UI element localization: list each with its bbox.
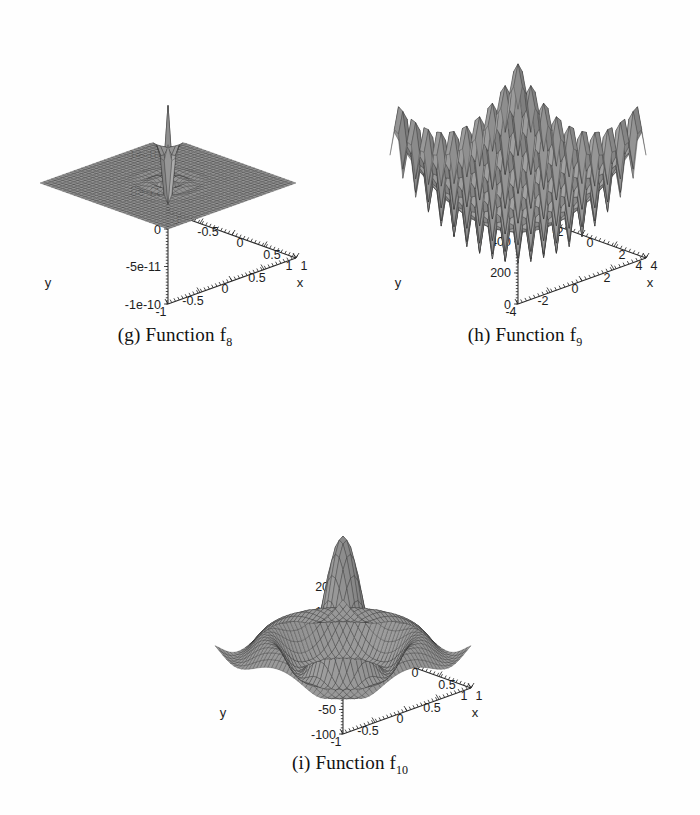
- svg-text:1: 1: [476, 689, 483, 703]
- svg-text:1: 1: [286, 259, 293, 273]
- svg-text:y: y: [395, 275, 402, 290]
- caption-g-subscript: 8: [226, 335, 232, 349]
- svg-text:-5e-11: -5e-11: [126, 260, 161, 274]
- caption-h: (h) Function f9: [350, 324, 700, 350]
- svg-text:1: 1: [461, 689, 468, 703]
- svg-text:y: y: [220, 705, 227, 720]
- svg-text:-0.5: -0.5: [197, 225, 219, 239]
- svg-text:y: y: [45, 275, 52, 290]
- svg-text:0: 0: [222, 282, 229, 296]
- svg-text:0.5: 0.5: [248, 271, 265, 285]
- svg-text:0: 0: [587, 236, 594, 250]
- surface-plot-g: -1e-10-5e-1105e-111e-10-1-0.500.51-1-0.5…: [0, 6, 350, 316]
- caption-h-text: (h) Function f: [468, 324, 576, 345]
- svg-text:200: 200: [490, 266, 511, 280]
- svg-text:-1: -1: [330, 735, 341, 749]
- caption-h-subscript: 9: [576, 335, 582, 349]
- surface-plot-i: -100-50050100150200-1-0.500.51-1-0.500.5…: [175, 440, 525, 750]
- svg-text:x: x: [297, 275, 304, 290]
- figure-page: -1e-10-5e-1105e-111e-10-1-0.500.51-1-0.5…: [0, 0, 700, 815]
- caption-g: (g) Function f8: [0, 324, 350, 350]
- svg-text:0: 0: [397, 712, 404, 726]
- caption-g-text: (g) Function f: [118, 324, 226, 345]
- svg-text:-50: -50: [318, 703, 336, 717]
- svg-text:4: 4: [636, 259, 643, 273]
- caption-i: (i) Function f10: [175, 752, 525, 778]
- svg-text:1: 1: [301, 259, 308, 273]
- svg-text:-0.5: -0.5: [182, 294, 204, 308]
- svg-text:0: 0: [572, 282, 579, 296]
- svg-text:-4: -4: [505, 305, 516, 319]
- svg-text:2: 2: [604, 271, 611, 285]
- caption-i-subscript: 10: [396, 763, 408, 777]
- svg-text:-0.5: -0.5: [357, 724, 379, 738]
- svg-text:0.5: 0.5: [423, 701, 440, 715]
- svg-text:x: x: [647, 275, 654, 290]
- svg-text:0: 0: [237, 236, 244, 250]
- svg-text:4: 4: [651, 259, 658, 273]
- surface-plot-h: 02004006001000-4-2024-4-2024yx: [350, 6, 700, 316]
- caption-i-text: (i) Function f: [292, 752, 396, 773]
- svg-text:2: 2: [619, 248, 626, 262]
- svg-text:-1: -1: [155, 305, 166, 319]
- svg-text:x: x: [472, 705, 479, 720]
